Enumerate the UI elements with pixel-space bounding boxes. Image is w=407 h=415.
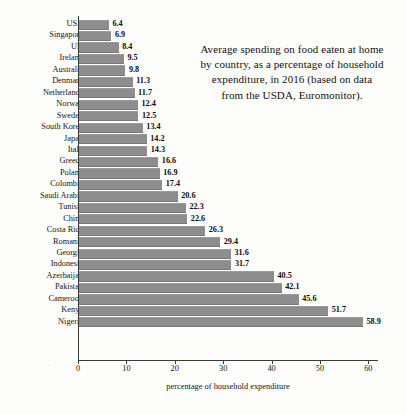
category-label: Colombia — [5, 178, 83, 189]
category-label: Azerbaijan — [5, 270, 83, 281]
bar — [78, 294, 299, 304]
category-label: Georgia — [5, 247, 83, 258]
bar — [78, 191, 178, 201]
bar-value-label: 6.4 — [109, 18, 123, 29]
x-tick — [175, 360, 176, 364]
bar-track: 51.7 — [78, 306, 407, 314]
category-label: Netherlands — [5, 87, 83, 98]
bar — [78, 88, 135, 98]
bar-track: 16.9 — [78, 168, 407, 176]
bar — [78, 237, 220, 247]
chart-title-line-1: Average spending on food eaten at home — [186, 42, 398, 57]
x-tick-label: 0 — [76, 364, 80, 373]
bar-track: 45.6 — [78, 294, 407, 302]
x-tick — [368, 360, 369, 364]
x-tick-label: 30 — [219, 364, 227, 373]
bar-value-label: 14.2 — [147, 133, 165, 144]
x-tick-label: 40 — [267, 364, 275, 373]
bar-track: 31.6 — [78, 249, 407, 257]
bar — [78, 42, 119, 52]
category-label: Pakistan — [5, 281, 83, 292]
category-label: USA — [5, 18, 83, 29]
bar-track: 6.4 — [78, 20, 407, 28]
bar-row: Azerbaijan40.5 — [0, 270, 407, 281]
category-label: Japan — [5, 133, 83, 144]
bar-row: Colombia17.4 — [0, 178, 407, 189]
bar — [78, 100, 138, 110]
category-label: Sweden — [5, 110, 83, 121]
x-axis-title: percentage of household expenditure — [78, 382, 378, 391]
bar-value-label: 16.6 — [158, 155, 176, 166]
bar-track: 29.4 — [78, 237, 407, 245]
bar-track: 20.6 — [78, 191, 407, 199]
bar — [78, 283, 282, 293]
chart-page: USA6.4Singapore6.9UK8.4Ireland9.5Austral… — [0, 0, 407, 415]
bar-value-label: 9.5 — [124, 52, 138, 63]
bar — [78, 146, 147, 156]
x-tick — [272, 360, 273, 364]
bar — [78, 203, 186, 213]
category-label: Costa Rica — [5, 224, 83, 235]
x-tick — [223, 360, 224, 364]
bar-track: 42.1 — [78, 283, 407, 291]
bar-row: Georgia31.6 — [0, 247, 407, 258]
bar-value-label: 51.7 — [328, 304, 346, 315]
category-label: Tunisia — [5, 201, 83, 212]
bar-track: 22.6 — [78, 214, 407, 222]
bar-value-label: 14.3 — [147, 144, 165, 155]
category-label: Poland — [5, 167, 83, 178]
bar-value-label: 31.6 — [231, 247, 249, 258]
bar-row: Japan14.2 — [0, 133, 407, 144]
x-tick — [320, 360, 321, 364]
category-label: Denmark — [5, 75, 83, 86]
bar-row: China22.6 — [0, 213, 407, 224]
bar-row: Indonesia31.7 — [0, 258, 407, 269]
bar-value-label: 40.5 — [274, 270, 292, 281]
category-label: Cameroon — [5, 293, 83, 304]
bar — [78, 226, 205, 236]
bar — [78, 306, 328, 316]
bar-row: Sweden12.5 — [0, 110, 407, 121]
bar-value-label: 26.3 — [205, 224, 223, 235]
bar-value-label: 11.7 — [135, 87, 152, 98]
chart-title-line-4: from the USDA, Euromonitor). — [186, 88, 398, 103]
bar-row: Greece16.6 — [0, 155, 407, 166]
bar-row: Kenya51.7 — [0, 304, 407, 315]
x-tick-label: 60 — [364, 364, 372, 373]
x-axis-line — [78, 360, 378, 361]
bar-row: Romania29.4 — [0, 236, 407, 247]
bar-value-label: 45.6 — [299, 293, 317, 304]
chart-title-line-3: expenditure, in 2016 (based on data — [186, 72, 398, 87]
bar-value-label: 11.3 — [133, 75, 150, 86]
bar-value-label: 58.9 — [363, 316, 381, 327]
bar-row: Poland16.9 — [0, 167, 407, 178]
category-label: South Korea — [5, 121, 83, 132]
bar — [78, 271, 274, 281]
bar-track: 26.3 — [78, 226, 407, 234]
bar-value-label: 13.4 — [143, 121, 161, 132]
bar — [78, 168, 160, 178]
bar — [78, 111, 138, 121]
x-tick-label: 10 — [122, 364, 130, 373]
bar — [78, 157, 158, 167]
bar-row: Nigeria58.9 — [0, 316, 407, 327]
bar-row: Costa Rica26.3 — [0, 224, 407, 235]
bar-value-label: 29.4 — [220, 236, 238, 247]
bar — [78, 20, 109, 30]
category-label: China — [5, 213, 83, 224]
chart-title: Average spending on food eaten at home b… — [186, 42, 398, 103]
x-tick-label: 50 — [316, 364, 324, 373]
category-label: Indonesia — [5, 258, 83, 269]
chart-title-line-2: by country, as a percentage of household — [186, 57, 398, 72]
bar-track: 14.2 — [78, 134, 407, 142]
bar-value-label: 20.6 — [178, 190, 196, 201]
category-label: Norway — [5, 98, 83, 109]
bar-row: Tunisia22.3 — [0, 201, 407, 212]
bar-track: 31.7 — [78, 260, 407, 268]
bar-value-label: 31.7 — [231, 258, 249, 269]
category-label: Ireland — [5, 52, 83, 63]
category-label: Australia — [5, 64, 83, 75]
category-label: Saudi Arabia — [5, 190, 83, 201]
bar — [78, 77, 133, 87]
x-tick — [126, 360, 127, 364]
